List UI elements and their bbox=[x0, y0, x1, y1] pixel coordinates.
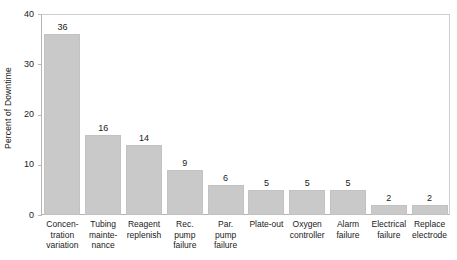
bar-value-label: 36 bbox=[44, 23, 80, 32]
x-axis-label-line: Electrical bbox=[366, 219, 411, 230]
bar-value-label: 2 bbox=[412, 194, 448, 203]
x-axis-label-line: mainte- bbox=[81, 230, 126, 241]
bar-group[interactable]: 5 bbox=[289, 14, 325, 215]
x-axis-label: Concen-trationvariation bbox=[40, 219, 85, 251]
bar[interactable] bbox=[208, 185, 244, 215]
bar[interactable] bbox=[330, 190, 366, 215]
x-axis-labels: Concen-trationvariationTubingmainte-nanc… bbox=[42, 219, 450, 259]
x-axis-label: Replaceelectrode bbox=[407, 219, 452, 240]
x-axis-label: Oxygencontroller bbox=[285, 219, 330, 240]
y-tick-label: 0 bbox=[10, 211, 34, 220]
x-axis-label: Reagentreplenish bbox=[122, 219, 167, 240]
x-axis-label-line: Plate-out bbox=[244, 219, 289, 230]
bar-value-label: 14 bbox=[126, 134, 162, 143]
y-axis-title-text: Percent of Downtime bbox=[3, 67, 13, 149]
bar-value-label: 9 bbox=[167, 159, 203, 168]
y-tick-label: 40 bbox=[10, 10, 34, 19]
bar-value-label: 6 bbox=[208, 174, 244, 183]
bar[interactable] bbox=[126, 145, 162, 215]
bar[interactable] bbox=[44, 34, 80, 215]
x-axis-label-line: Reagent bbox=[122, 219, 167, 230]
bar-value-label: 2 bbox=[371, 194, 407, 203]
bar-group[interactable]: 6 bbox=[208, 14, 244, 215]
bar-value-label: 5 bbox=[330, 179, 366, 188]
bar[interactable] bbox=[412, 205, 448, 215]
x-axis-label-line: Oxygen bbox=[285, 219, 330, 230]
x-axis-label-line: failure bbox=[326, 230, 371, 241]
bar[interactable] bbox=[167, 170, 203, 215]
bars-layer: 3616149655522 bbox=[42, 14, 450, 215]
bar-group[interactable]: 5 bbox=[248, 14, 284, 215]
bar-group[interactable]: 14 bbox=[126, 14, 162, 215]
bar-chart: Percent of Downtime 010203040 3616149655… bbox=[0, 0, 457, 260]
x-axis-label-line: Tubing bbox=[81, 219, 126, 230]
x-axis-label-line: Par. bbox=[203, 219, 248, 230]
x-axis-label: Plate-out bbox=[244, 219, 289, 230]
y-tick-mark bbox=[38, 215, 42, 216]
bar-group[interactable]: 36 bbox=[44, 14, 80, 215]
x-axis-label-line: Replace bbox=[407, 219, 452, 230]
bar-group[interactable]: 16 bbox=[85, 14, 121, 215]
y-tick-label: 10 bbox=[10, 160, 34, 169]
x-axis-label-line: Alarm bbox=[326, 219, 371, 230]
x-axis-label-line: electrode bbox=[407, 230, 452, 241]
x-axis-label: Tubingmainte-nance bbox=[81, 219, 126, 251]
y-tick-label: 20 bbox=[10, 110, 34, 119]
x-axis-label-line: Rec. bbox=[162, 219, 207, 230]
bar[interactable] bbox=[371, 205, 407, 215]
x-axis-label-line: tration bbox=[40, 230, 85, 241]
x-axis-label-line: failure bbox=[203, 240, 248, 251]
bar-group[interactable]: 2 bbox=[412, 14, 448, 215]
x-axis-label-line: pump bbox=[203, 230, 248, 241]
bar-value-label: 5 bbox=[248, 179, 284, 188]
bar-group[interactable]: 2 bbox=[371, 14, 407, 215]
x-axis-label-line: controller bbox=[285, 230, 330, 241]
y-axis-title: Percent of Downtime bbox=[0, 0, 16, 215]
x-axis-label-line: failure bbox=[162, 240, 207, 251]
x-axis-label: Par.pumpfailure bbox=[203, 219, 248, 251]
bar-value-label: 16 bbox=[85, 124, 121, 133]
x-axis-label-line: pump bbox=[162, 230, 207, 241]
x-axis-label-line: variation bbox=[40, 240, 85, 251]
bar[interactable] bbox=[248, 190, 284, 215]
x-axis-label: Rec.pumpfailure bbox=[162, 219, 207, 251]
bar-group[interactable]: 5 bbox=[330, 14, 366, 215]
x-axis-label-line: failure bbox=[366, 230, 411, 241]
y-tick-label: 30 bbox=[10, 60, 34, 69]
bar-group[interactable]: 9 bbox=[167, 14, 203, 215]
bar-value-label: 5 bbox=[289, 179, 325, 188]
x-axis-label: Alarmfailure bbox=[326, 219, 371, 240]
x-axis-label-line: replenish bbox=[122, 230, 167, 241]
x-axis-label: Electricalfailure bbox=[366, 219, 411, 240]
x-axis-label-line: nance bbox=[81, 240, 126, 251]
bar[interactable] bbox=[85, 135, 121, 215]
bar[interactable] bbox=[289, 190, 325, 215]
x-axis-label-line: Concen- bbox=[40, 219, 85, 230]
